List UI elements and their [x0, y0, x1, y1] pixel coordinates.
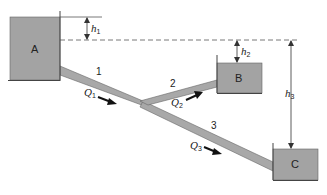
q1-flow-arrow-icon	[98, 97, 117, 105]
q3-flow-arrow-icon	[204, 147, 222, 155]
tank-c-label: C	[291, 158, 299, 170]
pipe-3-label: 3	[211, 120, 217, 131]
q1-label: Q1	[84, 86, 96, 99]
pipe-1-label: 1	[96, 66, 102, 77]
h1-label: h1	[91, 22, 101, 35]
h2-label: h2	[241, 45, 251, 58]
h3-label: h3	[285, 87, 295, 100]
tank-a-label: A	[31, 43, 39, 55]
diagram-canvas: A B C h1 h2 h3 1 2 3 Q1 Q2 Q3	[0, 0, 327, 195]
tank-b-label: B	[235, 72, 242, 84]
pipe-2-label: 2	[170, 78, 176, 89]
reservoir-diagram: A B C h1 h2 h3 1 2 3 Q1 Q2 Q3	[0, 0, 327, 195]
pipe-3	[140, 101, 273, 171]
q3-label: Q3	[190, 139, 202, 152]
pipe-1	[60, 66, 147, 107]
q2-label: Q2	[171, 96, 183, 109]
